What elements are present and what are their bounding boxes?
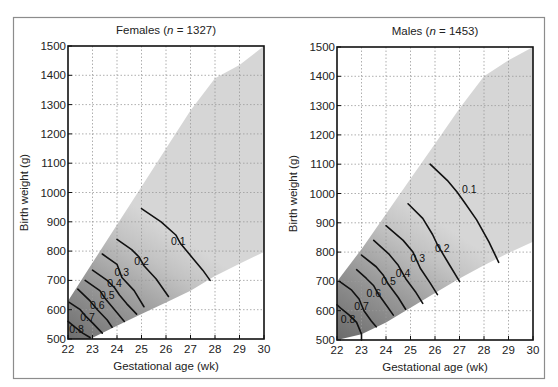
contour-label: 0.2 [435, 242, 450, 254]
y-tick-label: 1000 [40, 187, 66, 199]
panel-title-prefix: Males ( [392, 25, 430, 37]
x-tick-label: 29 [233, 343, 246, 355]
contour-label: 0.1 [171, 235, 186, 247]
panel-title-suffix: = 1327) [174, 24, 217, 36]
y-tick-label: 700 [316, 275, 335, 287]
x-tick-label: 25 [404, 344, 417, 356]
figure: 0.10.20.30.40.50.60.70.82223242526272829… [0, 0, 558, 387]
x-tick-label: 26 [429, 344, 442, 356]
y-tick-label: 900 [316, 217, 335, 229]
x-tick-label: 28 [209, 343, 222, 355]
x-tick-label: 26 [160, 343, 173, 355]
y-tick-label: 1200 [309, 129, 335, 141]
x-tick-label: 25 [135, 343, 148, 355]
y-tick-label: 900 [47, 216, 66, 228]
contour-label: 0.6 [366, 287, 381, 299]
panel-title-suffix: = 1453) [436, 25, 479, 37]
y-tick-label: 1400 [40, 69, 66, 81]
x-tick-label: 24 [380, 344, 393, 356]
y-tick-label: 1100 [310, 158, 335, 170]
panel-title: Females (n = 1327) [116, 24, 216, 36]
contour-label: 0.2 [134, 255, 149, 267]
contour-label: 0.3 [411, 252, 426, 264]
x-tick-label: 24 [111, 343, 124, 355]
panel-title-prefix: Females ( [116, 24, 167, 36]
panel-title: Males (n = 1453) [392, 25, 479, 37]
x-tick-label: 27 [184, 343, 197, 355]
x-tick-label: 23 [86, 343, 99, 355]
y-tick-label: 1100 [41, 157, 66, 169]
y-axis-title: Birth weight (g) [18, 154, 30, 232]
contour-label: 0.1 [462, 183, 477, 195]
y-tick-label: 1000 [309, 188, 335, 200]
y-tick-label: 600 [316, 305, 335, 317]
contour-label: 0.4 [396, 267, 411, 279]
x-tick-label: 27 [453, 344, 466, 356]
contour-label: 0.3 [115, 266, 130, 278]
contour-label: 0.7 [80, 311, 95, 323]
contour-label: 0.7 [354, 300, 369, 312]
y-tick-label: 700 [47, 274, 66, 286]
contour-label: 0.8 [69, 323, 84, 335]
y-tick-label: 800 [47, 245, 66, 257]
y-tick-label: 600 [47, 304, 66, 316]
x-tick-label: 28 [478, 344, 491, 356]
y-tick-label: 500 [47, 333, 66, 345]
contour-label: 0.6 [90, 299, 105, 311]
x-axis-title: Gestational age (wk) [382, 361, 488, 373]
x-tick-label: 30 [527, 344, 540, 356]
y-tick-label: 800 [316, 246, 335, 258]
y-tick-label: 1200 [40, 128, 66, 140]
y-tick-label: 500 [316, 334, 335, 346]
y-tick-label: 1500 [40, 40, 66, 52]
y-tick-label: 1500 [309, 41, 335, 53]
x-tick-label: 23 [355, 344, 368, 356]
y-tick-label: 1300 [40, 99, 66, 111]
x-axis-title: Gestational age (wk) [113, 360, 219, 372]
contour-label: 0.4 [107, 277, 122, 289]
contour-label: 0.8 [341, 313, 356, 325]
y-tick-label: 1300 [309, 100, 335, 112]
y-tick-label: 1400 [309, 70, 335, 82]
x-tick-label: 29 [502, 344, 515, 356]
contour-label: 0.5 [381, 275, 396, 287]
x-tick-label: 30 [258, 343, 271, 355]
y-axis-title: Birth weight (g) [287, 155, 299, 233]
